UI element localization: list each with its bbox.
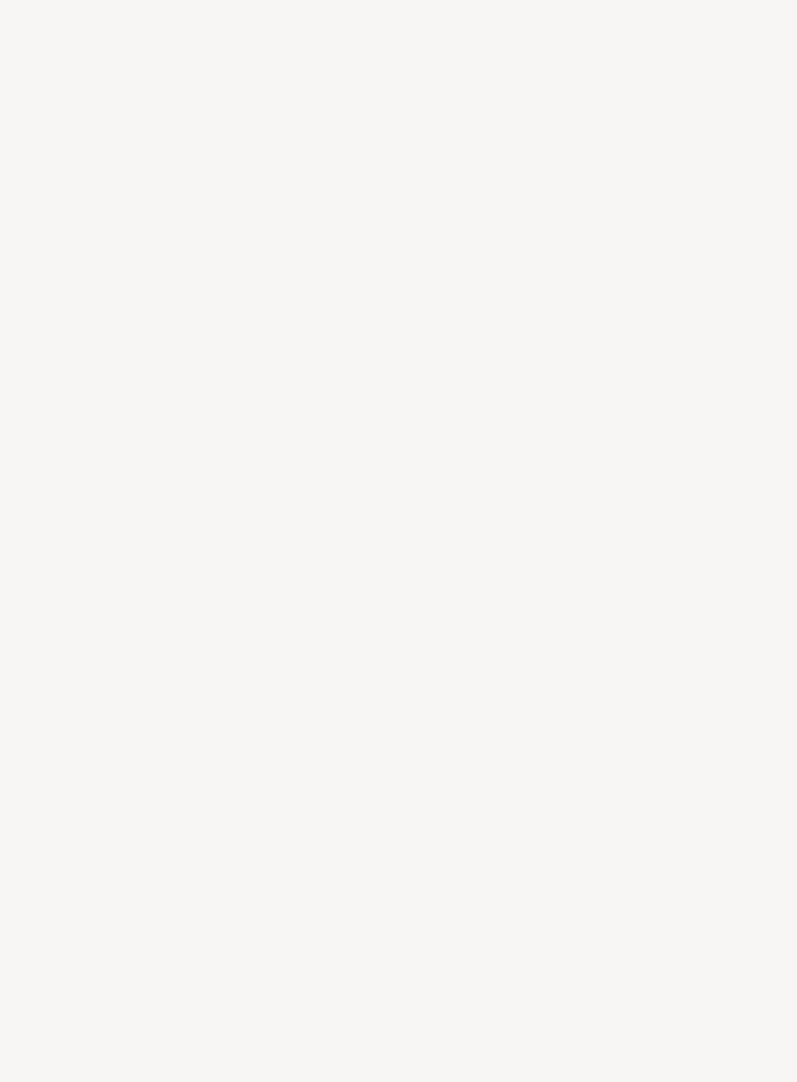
figure-grid [0,0,797,1082]
